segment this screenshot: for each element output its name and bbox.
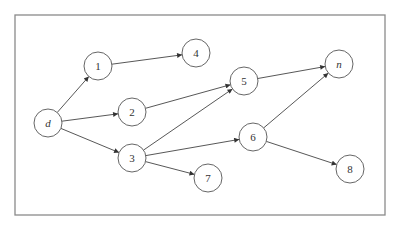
edge-1-to-4 (112, 55, 182, 64)
node-7: 7 (194, 164, 222, 192)
node-d: d (34, 109, 62, 137)
node-label: 2 (129, 106, 135, 118)
node-4: 4 (182, 39, 210, 67)
edge-5-to-n (258, 67, 325, 79)
node-label: 5 (241, 75, 247, 87)
edge-3-to-7 (146, 162, 195, 175)
node-label: 1 (95, 60, 101, 72)
node-1: 1 (84, 52, 112, 80)
directed-graph-diagram: d1234567n8 (0, 0, 397, 230)
node-n: n (325, 50, 353, 78)
node-5: 5 (230, 67, 258, 95)
edge-d-to-2 (62, 114, 118, 121)
node-2: 2 (118, 98, 146, 126)
node-label: 4 (193, 47, 199, 59)
node-label: 3 (129, 152, 135, 164)
node-label: 8 (347, 163, 353, 175)
edge-3-to-6 (146, 139, 239, 155)
node-label: n (336, 58, 342, 70)
edge-2-to-5 (146, 85, 231, 109)
figure-caption (150, 216, 270, 224)
edge-6-to-n (264, 73, 329, 128)
node-layer: d1234567n8 (34, 39, 364, 192)
node-label: d (45, 117, 51, 129)
edge-d-to-1 (57, 77, 89, 113)
edge-d-to-3 (61, 128, 119, 152)
edge-3-to-5 (144, 89, 233, 150)
node-8: 8 (336, 155, 364, 183)
node-3: 3 (118, 144, 146, 172)
node-label: 7 (205, 172, 211, 184)
node-label: 6 (250, 131, 256, 143)
node-6: 6 (239, 123, 267, 151)
edge-6-to-8 (266, 141, 336, 164)
